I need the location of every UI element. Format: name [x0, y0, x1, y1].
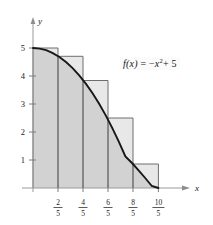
y-tick-label-2: 2 — [21, 127, 25, 137]
x-tick-label-2: 4 5 — [79, 198, 88, 218]
x-tick-label-5: 10 5 — [152, 198, 164, 218]
y-axis-label: y — [37, 16, 42, 26]
function-constant: + 5 — [163, 58, 177, 69]
x-tick-label-4: 8 5 — [129, 198, 138, 218]
x-tick-1-denominator: 5 — [56, 209, 60, 218]
function-arg: (x) — [126, 58, 138, 69]
x-tick-5-denominator: 5 — [157, 209, 161, 218]
x-tick-5-numerator: 10 — [155, 198, 163, 207]
x-tick-3-denominator: 5 — [106, 209, 110, 218]
x-tick-2-denominator: 5 — [81, 209, 85, 218]
y-axis-arrowhead — [31, 17, 36, 24]
x-tick-label-3: 6 5 — [104, 198, 113, 218]
x-tick-2-numerator: 4 — [81, 198, 85, 207]
y-tick-label-1: 1 — [21, 155, 25, 165]
y-tick-label-3: 3 — [21, 99, 25, 109]
y-tick-label-4: 4 — [21, 71, 26, 81]
x-tick-4-numerator: 8 — [131, 198, 135, 207]
x-tick-1-numerator: 2 — [56, 198, 60, 207]
function-equals: = — [140, 58, 146, 69]
x-axis-arrowhead — [182, 185, 190, 190]
x-tick-label-1: 2 5 — [54, 198, 63, 218]
x-tick-3-numerator: 6 — [106, 198, 110, 207]
x-axis-label: x — [194, 183, 199, 193]
function-annotation: f(x) = −x2+ 5 — [120, 57, 180, 70]
x-tick-4-denominator: 5 — [131, 209, 135, 218]
y-tick-label-5: 5 — [21, 43, 25, 53]
chart-canvas: 5 4 3 2 1 2 5 4 5 6 5 8 — [0, 0, 213, 225]
figure-container: 5 4 3 2 1 2 5 4 5 6 5 8 — [0, 0, 213, 225]
